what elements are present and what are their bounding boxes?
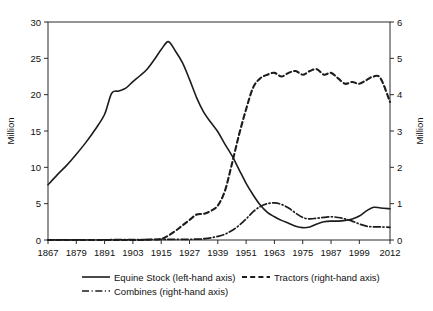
x-tick-label: 1867	[37, 247, 58, 258]
x-tick-label: 1987	[320, 247, 341, 258]
x-tick-label: 1999	[349, 247, 370, 258]
y-tick-label-left: 30	[30, 17, 41, 28]
x-tick-label: 1975	[292, 247, 313, 258]
y-tick-label-left: 25	[30, 53, 41, 64]
x-tick-label: 1903	[122, 247, 143, 258]
chart-background	[0, 0, 433, 311]
legend-label: Tractors (right-hand axis)	[274, 272, 380, 283]
x-tick-label: 1963	[264, 247, 285, 258]
y-tick-label-left: 20	[30, 89, 41, 100]
legend-label: Combines (right-hand axis)	[114, 286, 228, 297]
x-tick-label: 1951	[236, 247, 257, 258]
legend-label: Equine Stock (left-hand axis)	[114, 272, 235, 283]
x-tick-label: 2012	[379, 247, 400, 258]
x-tick-label: 1879	[66, 247, 87, 258]
y-tick-label-left: 15	[30, 126, 41, 137]
line-chart: 1867187918911903191519271939195119631975…	[0, 0, 433, 311]
x-tick-label: 1891	[94, 247, 115, 258]
y-axis-left-title: Million	[5, 118, 16, 145]
x-tick-label: 1915	[151, 247, 172, 258]
y-tick-label-right: 2	[397, 162, 402, 173]
x-tick-label: 1927	[179, 247, 200, 258]
y-tick-label-right: 0	[397, 235, 402, 246]
y-tick-label-right: 1	[397, 198, 402, 209]
x-tick-label: 1939	[207, 247, 228, 258]
y-tick-label-right: 4	[397, 89, 402, 100]
y-tick-label-left: 5	[36, 198, 41, 209]
y-tick-label-left: 10	[30, 162, 41, 173]
chart-container: 1867187918911903191519271939195119631975…	[0, 0, 433, 311]
y-tick-label-right: 5	[397, 53, 402, 64]
y-axis-right-title: Million	[414, 118, 425, 145]
y-tick-label-left: 0	[36, 235, 41, 246]
y-tick-label-right: 6	[397, 17, 402, 28]
y-tick-label-right: 3	[397, 126, 402, 137]
